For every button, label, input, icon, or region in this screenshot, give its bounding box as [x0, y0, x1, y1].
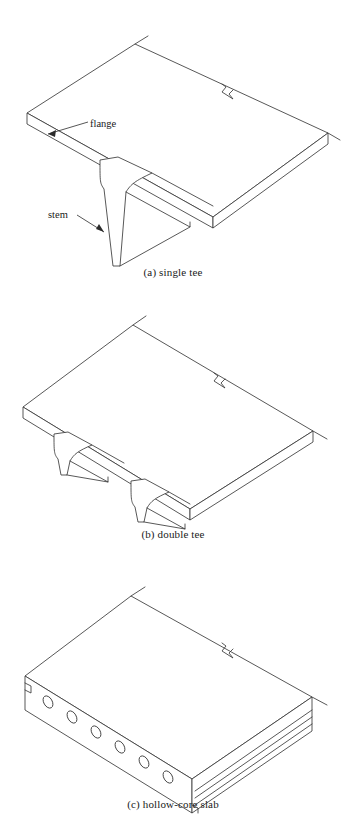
stem-bottom-edge [120, 227, 190, 266]
edge-overrun-top-left [133, 316, 146, 325]
hollow-core-slab-drawing [0, 555, 346, 823]
stem-near-face [100, 157, 152, 266]
caption-hollow-core-slab: (c) hollow-core slab [0, 798, 346, 810]
flange-top-surface [23, 325, 313, 509]
edge-overrun-right [312, 697, 327, 705]
panel-double-tee: (b) double tee [0, 300, 346, 555]
edge-overrun-right [313, 431, 327, 439]
stem-leader-arrowhead [96, 224, 104, 232]
panel-single-tee: flange stem (a) single tee [0, 0, 346, 300]
flange-label: flange [90, 118, 116, 129]
panel-hollow-core-slab: (c) hollow-core slab [0, 555, 346, 823]
single-tee-drawing [0, 0, 346, 300]
edge-overrun-top-left [131, 587, 145, 596]
edge-overrun-top-left [135, 36, 148, 44]
flange-top-surface [27, 44, 328, 217]
stem-label: stem [48, 209, 68, 220]
caption-single-tee: (a) single tee [0, 266, 346, 278]
caption-double-tee: (b) double tee [0, 528, 346, 540]
edge-overrun-right [328, 133, 340, 140]
double-tee-drawing [0, 300, 346, 555]
